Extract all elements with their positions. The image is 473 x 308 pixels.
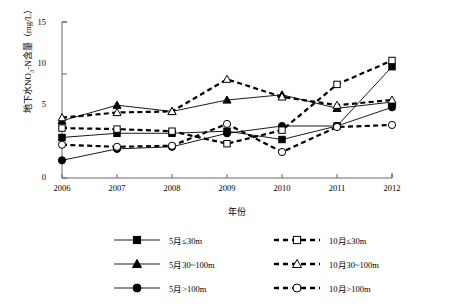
legend-marker-filled-circle (112, 281, 164, 295)
legend-item[interactable]: 5月30~100m (112, 252, 215, 276)
legend-label: 10月>100m (329, 282, 371, 294)
legend-label: 5月≤30m (169, 234, 202, 246)
legend-item[interactable]: 10月>100m (272, 276, 379, 300)
legend-label: 5月30~100m (169, 258, 215, 270)
legend-column-october: 10月≤30m 10月30~100m 10月>100m (272, 228, 379, 300)
legend-column-may: 5月≤30m 5月30~100m 5月>100m (112, 228, 215, 300)
legend-marker-open-circle (272, 281, 324, 295)
legend-marker-open-triangle (272, 257, 324, 271)
legend-marker-open-square (272, 233, 324, 247)
legend-label: 5月>100m (169, 282, 206, 294)
plot-area (0, 0, 473, 308)
legend-item[interactable]: 10月≤30m (272, 228, 379, 252)
legend-item[interactable]: 10月30~100m (272, 252, 379, 276)
legend-label: 10月30~100m (329, 258, 379, 270)
legend-label: 10月≤30m (329, 234, 366, 246)
legend-marker-filled-triangle (112, 257, 164, 271)
legend-item[interactable]: 5月≤30m (112, 228, 215, 252)
chart-figure: 地下水NO3-N含量（mg/L） 年份 15 10 5 0 2006 2007 … (0, 0, 473, 308)
legend-item[interactable]: 5月>100m (112, 276, 215, 300)
legend-marker-filled-square (112, 233, 164, 247)
